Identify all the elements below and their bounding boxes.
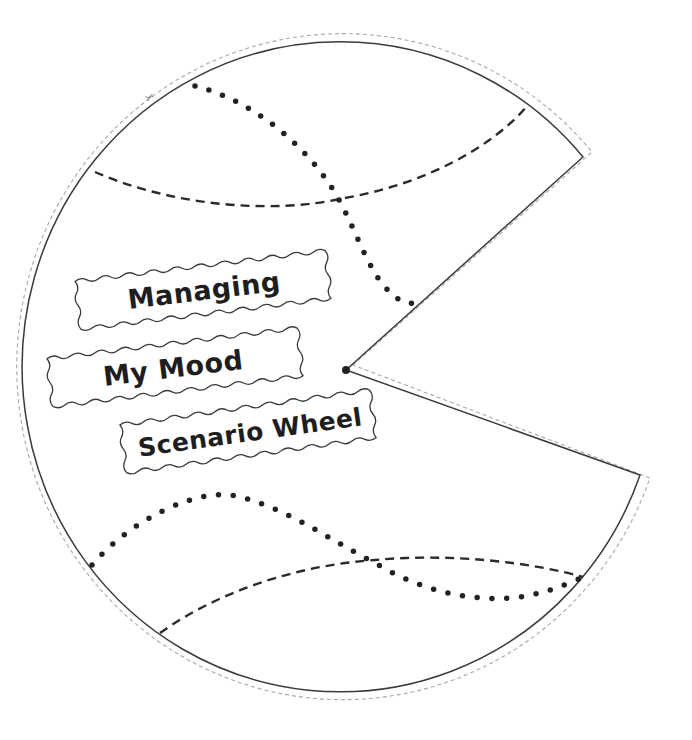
scenario-wheel-diagram: ✂ Managing My Mood Scenario Wheel (0, 0, 692, 740)
wheel-center-point (342, 366, 350, 374)
